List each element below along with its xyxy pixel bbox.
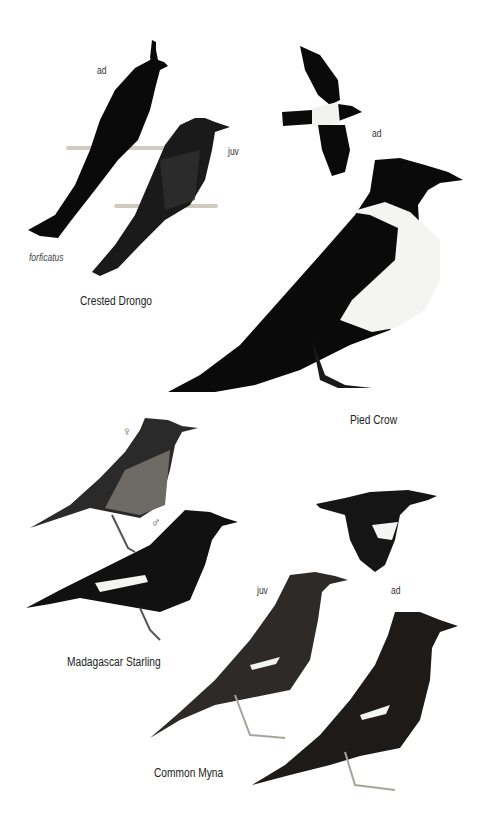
pied-crow-name: Pied Crow [350,413,397,427]
crested-drongo-adult-label: ad [97,65,106,76]
madagascar-starling-male-illustration [26,510,238,640]
subspecies-label: forficatus [29,252,63,263]
pied-crow-adult-label: ad [372,128,381,139]
common-myna-adult-label: ad [391,585,400,596]
common-myna-name: Common Myna [154,766,223,780]
common-myna-flying-illustration [316,490,437,572]
field-guide-plate: ad juv forficatus Crested Drongo ad Pied… [0,0,489,814]
female-symbol: ♀ [122,424,132,439]
pied-crow-flying-illustration [282,46,362,176]
crested-drongo-name: Crested Drongo [80,294,152,308]
madagascar-starling-name: Madagascar Starling [67,655,161,669]
bird-illustrations [0,0,489,814]
pied-crow-standing-illustration [168,158,463,392]
crested-drongo-juv-label: juv [228,146,239,157]
common-myna-juv-label: juv [257,585,268,596]
male-symbol: ♂ [151,515,161,530]
